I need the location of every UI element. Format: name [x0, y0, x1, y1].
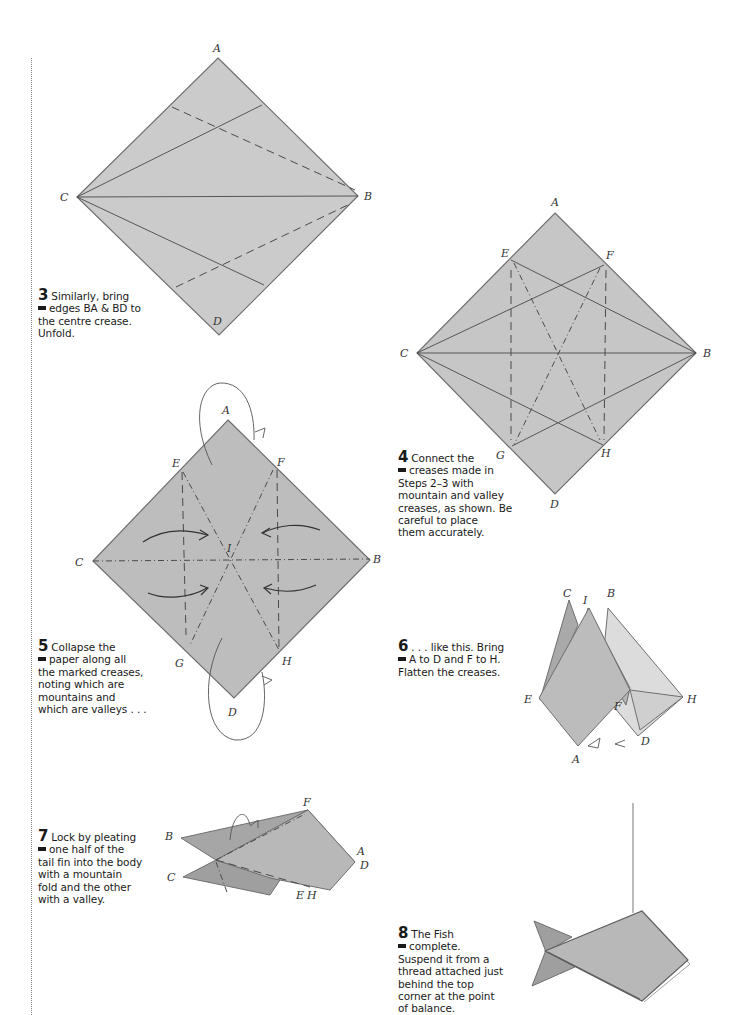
step-number: 8 [398, 924, 408, 942]
step-text-line: complete. [409, 940, 460, 952]
step-text-line: one half of the [49, 843, 124, 855]
step-text-line: Lock by pleating [51, 831, 136, 843]
step-text-line: Suspend it from a [398, 953, 528, 965]
step-text-line: tail fin into the body [38, 856, 178, 868]
step-marker-bar [398, 657, 406, 661]
step-text-line: them accurately. [398, 526, 538, 538]
step-text-line: Steps 2–3 with [398, 477, 538, 489]
step-text-line: Connect the [411, 452, 474, 464]
step-text-line: creases, as shown. Be [398, 502, 538, 514]
step-text-line: noting which are [38, 678, 178, 690]
step-text-line: thread attached just [398, 965, 528, 977]
step-text-line: Flatten the creases. [398, 666, 538, 678]
step-number: 6 [398, 637, 408, 655]
step-text-line: behind the top [398, 978, 528, 990]
step-number: 5 [38, 637, 48, 655]
step-text-line: Similarly, bring [51, 290, 129, 302]
step-6-instructions: 6. . . like this. Bring A to D and F to … [398, 640, 538, 678]
step-text-line: mountain and valley [398, 489, 538, 501]
step-text-line: with a mountain [38, 868, 178, 880]
step-text-line: the marked creases, [38, 666, 178, 678]
step-text-line: edges BA & BD to [49, 302, 141, 314]
step-text-line: A to D and F to H. [409, 653, 500, 665]
step-marker-bar [38, 306, 46, 310]
step-marker-bar [38, 657, 46, 661]
step-text-line: corner at the point [398, 990, 528, 1002]
step-text-line: of balance. [398, 1002, 528, 1014]
step-number: 7 [38, 827, 48, 845]
step-text-line: paper along all [49, 653, 126, 665]
step-number: 4 [398, 448, 408, 466]
step-text-line: which are valleys . . . [38, 703, 178, 715]
step-marker-bar [398, 944, 406, 948]
step-text-line: mountains and [38, 691, 178, 703]
step-text-line: The Fish [411, 928, 453, 940]
step-4-instructions: 4Connect the creases made in Steps 2–3 w… [398, 451, 538, 539]
step-text-line: creases made in [409, 464, 494, 476]
step-text-line: . . . like this. Bring [411, 641, 504, 653]
step-text-line: careful to place [398, 514, 538, 526]
step-text-line: the centre crease. [38, 315, 173, 327]
step-marker-bar [38, 847, 46, 851]
step-marker-bar [398, 468, 406, 472]
step-text-line: with a valley. [38, 893, 178, 905]
step-text-line: fold and the other [38, 881, 178, 893]
step-8-instructions: 8The Fish complete. Suspend it from a th… [398, 927, 528, 1015]
step-text-line: Unfold. [38, 327, 173, 339]
step-text-line: Collapse the [51, 641, 115, 653]
step-number: 3 [38, 286, 48, 304]
step-3-instructions: 3Similarly, bring edges BA & BD to the c… [38, 289, 173, 340]
step-5-instructions: 5Collapse the paper along all the marked… [38, 640, 178, 715]
step-7-instructions: 7Lock by pleating one half of the tail f… [38, 830, 178, 905]
